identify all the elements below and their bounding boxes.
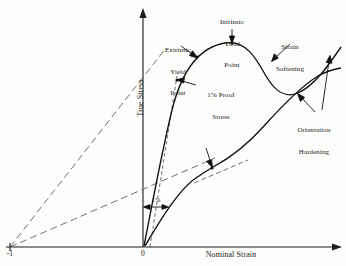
stress-strain-figure: Extrinsic Yield Point Intrinsic Yield Po…: [0, 0, 346, 266]
x-axis-arrowhead: [332, 243, 342, 250]
orientation-hardening-line-1: Orientation: [285, 127, 343, 134]
offset-arrowhead-left: [144, 205, 151, 210]
intrinsic-yield-point-line-1: Intrinsic: [207, 19, 257, 26]
y-axis-arrowhead: [139, 8, 146, 18]
proof-stress-line-1: 1% Proof: [196, 92, 246, 99]
proof-stress-line-2: Stress: [196, 114, 246, 121]
extrinsic-yield-point-line-1: Extrinsic: [152, 47, 204, 54]
arrowhead-orientation-hardening-upper: [326, 56, 332, 64]
intrinsic-yield-point-line-2: Yield: [207, 41, 257, 48]
arrowhead-lower-curve-knee: [207, 160, 213, 168]
dashed-line-nominal-stress-from-minus-one: [10, 158, 215, 247]
label-x-axis: Nominal Strain: [196, 251, 266, 259]
extrinsic-yield-point-line-2: Yield: [152, 69, 204, 76]
label-y-axis: True Stress: [137, 68, 145, 128]
strain-softening-line-2: Softening: [262, 66, 318, 73]
label-orientation-hardening: Orientation Hardening: [285, 113, 343, 170]
x-tick-label-minus-one: -1: [2, 250, 18, 258]
orientation-hardening-line-2: Hardening: [285, 149, 343, 156]
label-intrinsic-yield-point: Intrinsic Yield Point: [207, 5, 257, 83]
strain-softening-line-1: Strain: [262, 44, 318, 51]
x-tick-label-zero: 0: [136, 250, 150, 258]
label-proof-stress: 1% Proof Stress: [196, 78, 246, 135]
label-strain-softening: Strain Softening: [262, 30, 318, 87]
intrinsic-yield-point-line-3: Point: [207, 62, 257, 69]
label-offset-percent: 1%: [149, 197, 163, 204]
